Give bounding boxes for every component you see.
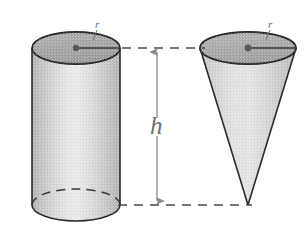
- cylinder-radius-label: r: [95, 18, 100, 30]
- cylinder-shape: r: [32, 18, 120, 221]
- height-label: h: [150, 112, 163, 139]
- cone-body-texture: [200, 48, 296, 205]
- cone-shape: r: [200, 18, 296, 205]
- figure-canvas: r r: [0, 0, 308, 229]
- cone-center-dot: [245, 45, 252, 52]
- cylinder-center-dot: [73, 45, 79, 51]
- geometry-figure: r r: [0, 0, 308, 229]
- cone-radius-label: r: [268, 18, 273, 30]
- cylinder-body-texture: [32, 48, 120, 221]
